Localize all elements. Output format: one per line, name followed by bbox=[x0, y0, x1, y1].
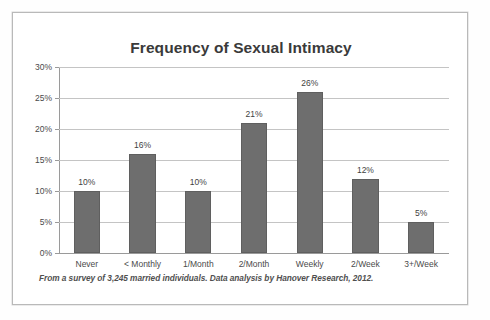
bar-value-label: 26% bbox=[282, 78, 338, 88]
y-axis-tick-label: 5% bbox=[40, 217, 52, 227]
bar-value-label: 21% bbox=[226, 109, 282, 119]
chart-frame: Frequency of Sexual Intimacy 0%5%10%15%2… bbox=[12, 12, 468, 305]
plot-area: 0%5%10%15%20%25%30% 10%16%10%21%26%12%5%… bbox=[59, 67, 449, 253]
gridline bbox=[59, 67, 449, 68]
bar bbox=[408, 222, 434, 253]
y-axis-tick-label: 30% bbox=[35, 62, 52, 72]
y-axis-tick-label: 15% bbox=[35, 155, 52, 165]
tick-mark bbox=[55, 129, 59, 130]
tick-mark bbox=[55, 67, 59, 68]
gridline bbox=[59, 253, 449, 254]
y-axis-tick-label: 10% bbox=[35, 186, 52, 196]
bar-value-label: 5% bbox=[393, 208, 449, 218]
gridline bbox=[59, 98, 449, 99]
x-axis-category-label: 2/Month bbox=[226, 259, 282, 269]
tick-mark bbox=[55, 253, 59, 254]
chart-title: Frequency of Sexual Intimacy bbox=[13, 39, 469, 57]
bar-value-label: 10% bbox=[59, 177, 115, 187]
x-axis-category-label: Weekly bbox=[282, 259, 338, 269]
tick-mark bbox=[55, 98, 59, 99]
bar-value-label: 10% bbox=[170, 177, 226, 187]
bar bbox=[297, 92, 323, 253]
tick-mark bbox=[55, 191, 59, 192]
bar-value-label: 12% bbox=[338, 165, 394, 175]
x-axis-category-label: 3+/Week bbox=[393, 259, 449, 269]
bar bbox=[129, 154, 155, 253]
x-axis-category-label: 1/Month bbox=[170, 259, 226, 269]
x-axis-category-label: < Monthly bbox=[115, 259, 171, 269]
x-axis-category-label: Never bbox=[59, 259, 115, 269]
y-axis-tick-label: 20% bbox=[35, 124, 52, 134]
tick-mark bbox=[55, 222, 59, 223]
bar bbox=[185, 191, 211, 253]
bar bbox=[74, 191, 100, 253]
bar bbox=[352, 179, 378, 253]
chart-figure: Frequency of Sexual Intimacy 0%5%10%15%2… bbox=[0, 0, 490, 320]
bar bbox=[241, 123, 267, 253]
chart-footnote: From a survey of 3,245 married individua… bbox=[39, 273, 373, 283]
tick-mark bbox=[55, 160, 59, 161]
y-axis-tick-label: 0% bbox=[40, 248, 52, 258]
bar-value-label: 16% bbox=[115, 140, 171, 150]
y-axis-tick-label: 25% bbox=[35, 93, 52, 103]
x-axis-category-label: 2/Week bbox=[338, 259, 394, 269]
